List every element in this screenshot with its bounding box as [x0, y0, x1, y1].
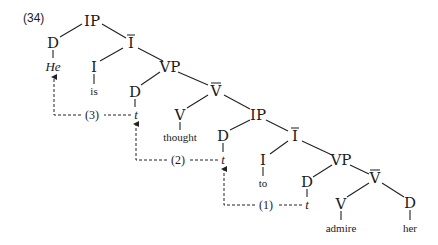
- node-i-to: I: [260, 151, 266, 169]
- tree-branches: [53, 24, 410, 220]
- node-d-t3: D: [129, 83, 141, 101]
- trace-t3: t: [134, 107, 138, 122]
- node-d-her: D: [404, 194, 416, 212]
- word-he: He: [44, 59, 60, 74]
- node-i-is: I: [91, 58, 97, 76]
- word-to: to: [259, 177, 268, 189]
- movement-label-1: (1): [259, 198, 273, 212]
- node-ip-top: IP: [84, 12, 100, 30]
- node-ibar-mid: I: [292, 127, 298, 145]
- node-ibar-top: I: [128, 34, 134, 52]
- node-vbar-low: V: [369, 169, 382, 187]
- syntax-tree-diagram: (34): [0, 0, 438, 245]
- word-her: her: [403, 222, 417, 234]
- tree-nodes: IP D He I I is VP D t V V thought IP D t…: [44, 12, 417, 234]
- word-is: is: [90, 85, 97, 97]
- node-v-thought: V: [174, 106, 187, 124]
- node-ip-mid: IP: [250, 106, 266, 124]
- node-v-admire: V: [335, 195, 348, 213]
- node-vp-low: VP: [330, 151, 352, 169]
- movement-arrows: (3) (2) (1): [54, 77, 302, 212]
- node-d-t1: D: [301, 173, 313, 191]
- word-thought: thought: [163, 131, 197, 143]
- node-d-t2: D: [217, 127, 229, 145]
- movement-label-2: (2): [171, 153, 185, 167]
- example-number: (34): [23, 11, 44, 25]
- movement-label-3: (3): [85, 108, 99, 122]
- node-vbar-top: V: [210, 82, 223, 100]
- word-admire: admire: [326, 222, 357, 234]
- trace-t2: t: [221, 152, 225, 167]
- node-vp-top: VP: [159, 58, 181, 76]
- node-d-he: D: [47, 34, 59, 52]
- trace-t1: t: [305, 197, 309, 212]
